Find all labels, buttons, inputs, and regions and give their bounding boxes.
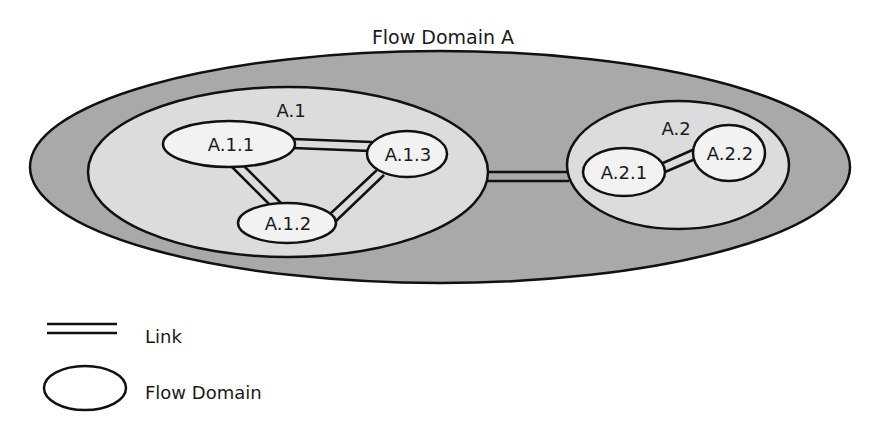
legend: Link Flow Domain [44,324,262,410]
node-a111[interactable]: A.1.1 [163,121,295,167]
double-line-icon [47,324,117,333]
node-a112-label: A.1.2 [265,213,311,234]
node-a111-label: A.1.1 [208,134,254,155]
legend-link-label: Link [145,326,182,347]
flow-domain-diagram: Flow Domain A A.1 A.2 A.1.1 A.1.2 A.1 [0,0,877,435]
legend-item-link: Link [47,324,182,347]
node-a112[interactable]: A.1.2 [238,203,336,243]
legend-flow-domain-label: Flow Domain [145,382,262,403]
diagram-title: Flow Domain A [372,26,514,48]
node-a222-label: A.2.2 [707,143,753,164]
node-a222[interactable]: A.2.2 [693,125,765,181]
subdomain-a2-label: A.2 [661,118,690,139]
node-a113-label: A.1.3 [385,144,431,165]
legend-item-flow-domain: Flow Domain [44,366,262,410]
node-a221-label: A.2.1 [601,162,647,183]
subdomain-a1-label: A.1 [276,100,305,121]
node-a221[interactable]: A.2.1 [583,148,665,196]
ellipse-icon [44,366,126,410]
node-a113[interactable]: A.1.3 [367,131,447,177]
